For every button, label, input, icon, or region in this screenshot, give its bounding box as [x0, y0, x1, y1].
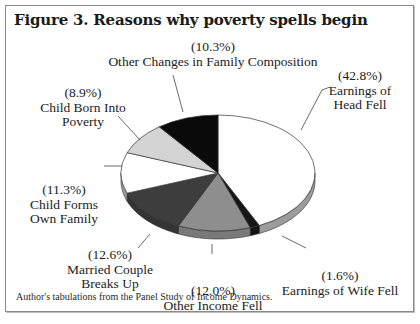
slice-percent-label: (1.6%) — [321, 268, 358, 283]
leader-line — [173, 75, 183, 112]
slice-name-label: Head Fell — [334, 97, 387, 112]
leader-line — [118, 116, 140, 140]
slice-name-label: Other Changes in Family Composition — [108, 54, 317, 69]
slice-percent-label: (42.8%) — [338, 68, 382, 83]
slice-name-label: Breaks Up — [81, 276, 139, 291]
slice-percent-label: (8.9%) — [64, 85, 101, 100]
source-note: Author's tabulations from the Panel Stud… — [16, 291, 272, 302]
slice-percent-label: (11.3%) — [42, 182, 85, 197]
slice-name-label: Child Born Into — [40, 100, 126, 115]
slice-name-label: Earnings of Wife Fell — [282, 283, 399, 298]
slice-name-label: Child Forms — [30, 197, 98, 212]
slice-name-label: Poverty — [62, 114, 104, 129]
slice-name-label: Married Couple — [67, 262, 153, 277]
leader-line — [282, 236, 306, 248]
pie-slices — [121, 115, 315, 231]
slice-name-label: Own Family — [30, 211, 98, 226]
slice-percent-label: (12.6%) — [88, 247, 132, 262]
pie-chart: (42.8%)Earnings ofHead Fell(1.6%)Earning… — [0, 0, 420, 324]
leader-line — [301, 87, 330, 130]
leader-line — [138, 234, 150, 248]
slice-percent-label: (10.3%) — [191, 39, 235, 54]
slice-name-label: Earnings of — [329, 83, 392, 98]
